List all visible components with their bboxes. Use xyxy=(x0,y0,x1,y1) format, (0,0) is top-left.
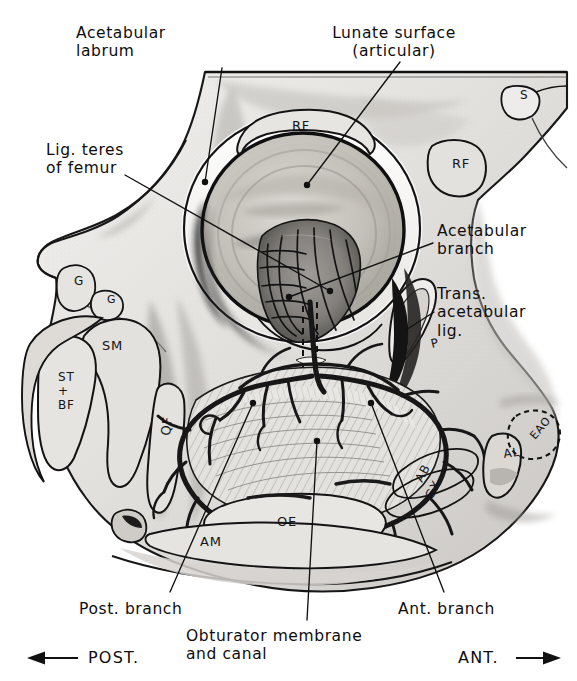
anatomical-illustration: RFRFSGGSMST+BFQFPAMOEABGXALEAO xyxy=(0,0,577,681)
callout-acetabular-labrum: Acetabular labrum xyxy=(76,24,166,61)
mark-oe: OE xyxy=(277,514,297,529)
callout-lunate-surface: Lunate surface (articular) xyxy=(332,24,456,61)
callout-trans-acetabular-lig: Trans. acetabular lig. xyxy=(437,285,526,340)
callout-ant-branch: Ant. branch xyxy=(398,600,495,618)
callout-obturator-membrane-and-canal: Obturator membrane and canal xyxy=(186,627,362,664)
figure-canvas: RFRFSGGSMST+BFQFPAMOEABGXALEAO Acetabula… xyxy=(0,0,577,681)
orientation-anterior-label: ANT. xyxy=(458,648,499,667)
callout-acetabular-branch: Acetabular branch xyxy=(437,222,527,259)
ant-arrow-head xyxy=(544,653,558,663)
mark-am: AM xyxy=(200,534,222,549)
mark-al: AL xyxy=(502,445,520,461)
orientation-posterior-label: POST. xyxy=(88,648,139,667)
callout-lig-teres-of-femur: Lig. teres of femur xyxy=(46,141,124,178)
mark-rf-arc: RF xyxy=(292,118,310,133)
mark-rf-blob: RF xyxy=(452,156,470,171)
mark-sm: SM xyxy=(102,338,123,353)
mark-qf: QF xyxy=(158,416,175,437)
callout-post-branch: Post. branch xyxy=(79,600,182,618)
post-arrow-head xyxy=(30,653,44,663)
mark-s-blob: S xyxy=(520,88,528,102)
mark-g-lower: G xyxy=(107,293,116,306)
mark-g-upper: G xyxy=(74,274,84,288)
